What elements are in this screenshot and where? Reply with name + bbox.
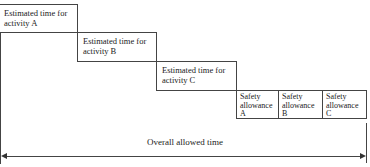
safety-a-line3: A <box>240 110 275 119</box>
safety-c-line3: C <box>326 110 363 119</box>
arrow-left-head-icon <box>1 153 7 159</box>
activity-b-label: Estimated time for activity B <box>83 36 146 56</box>
safety-b-line3: B <box>282 110 319 119</box>
safety-allowance-c-box: Safety allowance C <box>322 90 367 119</box>
activity-b-box: Estimated time for activity B <box>77 32 157 62</box>
activity-c-label: Estimated time for activity C <box>162 65 225 85</box>
arrow-right-head-icon <box>360 153 366 159</box>
safety-c-line2: allowance <box>326 102 363 111</box>
activity-a-box: Estimated time for activity A <box>0 4 78 33</box>
activity-c-box: Estimated time for activity C <box>156 61 237 91</box>
safety-allowance-b-box: Safety allowance B <box>278 90 323 119</box>
safety-b-line2: allowance <box>282 102 319 111</box>
activity-a-label: Estimated time for activity A <box>4 8 67 28</box>
overall-allowed-time-label: Overall allowed time <box>0 137 370 147</box>
overall-time-arrow-line <box>4 156 362 157</box>
safety-allowance-a-box: Safety allowance A <box>236 90 279 119</box>
